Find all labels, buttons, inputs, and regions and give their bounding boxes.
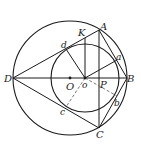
label-O: O: [66, 81, 74, 92]
label-C: C: [96, 129, 104, 140]
label-K: K: [77, 27, 86, 38]
line-DA: [13, 30, 99, 78]
label-a: a: [116, 52, 121, 62]
label-b: b: [114, 98, 120, 108]
label-o: o: [82, 80, 88, 90]
label-c: c: [60, 107, 65, 117]
geometry-diagram: A B C D K O o P a b c d: [0, 0, 141, 148]
point-o: [84, 77, 87, 80]
label-D: D: [3, 73, 12, 84]
label-A: A: [99, 21, 107, 32]
line-oa: [85, 60, 117, 78]
label-B: B: [126, 73, 134, 84]
line-od: [66, 49, 85, 78]
label-d: d: [61, 40, 67, 50]
label-P: P: [99, 79, 107, 90]
line-AB: [99, 30, 127, 78]
point-O: [69, 77, 72, 80]
